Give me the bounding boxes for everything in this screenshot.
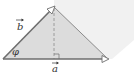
angle-phi-label: φ xyxy=(12,46,19,57)
vector-diagram: b φ a xyxy=(0,0,134,77)
vector-b-label: b xyxy=(17,21,23,32)
vector-a-label: a xyxy=(52,63,58,74)
